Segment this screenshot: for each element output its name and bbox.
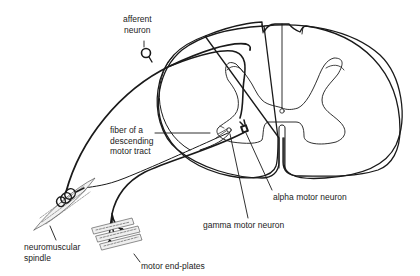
motor-end-plates-label: motor end-plates (141, 261, 205, 272)
gamma-motor-neuron-cell (227, 128, 231, 132)
muscle-fibers (92, 218, 142, 250)
afferent-neuron-label-line2: neuron (123, 25, 152, 36)
afferent-neuron-stalk (149, 57, 152, 62)
afferent-neuron-label-line1: afferent (123, 14, 152, 25)
afferent-fiber-inner (170, 51, 245, 118)
spinal-cord-outline-main (159, 25, 403, 179)
neuromuscular-spindle-label-line1: neuromuscular (24, 242, 80, 253)
neuromuscular-spindle-label-line2: spindle (24, 253, 80, 264)
descending-tract-label-line1: fiber of a (110, 125, 153, 136)
afferent-neuron-label: afferent neuron (123, 14, 152, 35)
gamma-motor-neuron-label: gamma motor neuron (203, 220, 284, 231)
neuromuscular-spindle-label: neuromuscular spindle (24, 242, 80, 263)
descending-tract-label-line2: descending (110, 136, 153, 147)
central-canal (280, 109, 284, 113)
gray-matter (217, 58, 345, 144)
end-plates-leader (134, 254, 140, 262)
alpha-motor-neuron-cell (241, 125, 248, 132)
neuromuscular-spindle (34, 178, 95, 230)
dorsal-sulcus-left (262, 24, 263, 33)
afferent-neuron-cell-body (142, 49, 151, 58)
alpha-dendrites (240, 120, 245, 125)
descending-tract-label: fiber of a descending motor tract (110, 125, 153, 157)
gamma-motor-axon (85, 133, 228, 188)
spindle-leader (50, 226, 56, 240)
descending-tract-label-line3: motor tract (110, 146, 153, 157)
alpha-motor-neuron-label: alpha motor neuron (273, 192, 347, 203)
afferent-fiber-outer (66, 44, 250, 192)
diagram-artwork (0, 0, 420, 276)
reflex-arc-diagram: afferent neuron fiber of a descending mo… (0, 0, 420, 276)
